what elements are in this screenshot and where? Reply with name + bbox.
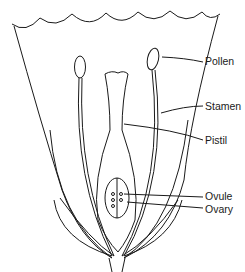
stem — [109, 258, 125, 272]
label-pollen: Pollen — [205, 55, 234, 67]
anther-left — [75, 56, 86, 78]
filament-right-2 — [124, 70, 158, 256]
filament-right — [122, 70, 155, 256]
sepal-right-2 — [122, 200, 178, 256]
leader-pollen — [162, 57, 203, 62]
label-ovary: Ovary — [205, 203, 234, 215]
pistil-shape — [97, 72, 137, 252]
flower-diagram: Pollen Stamen Pistil Ovule Ovary — [0, 0, 245, 272]
label-stamen: Stamen — [205, 100, 241, 112]
label-pistil: Pistil — [205, 134, 227, 146]
petal-rim — [12, 11, 220, 28]
anther-right — [145, 47, 160, 71]
label-ovule: Ovule — [205, 190, 233, 202]
leader-stamen — [161, 106, 203, 113]
